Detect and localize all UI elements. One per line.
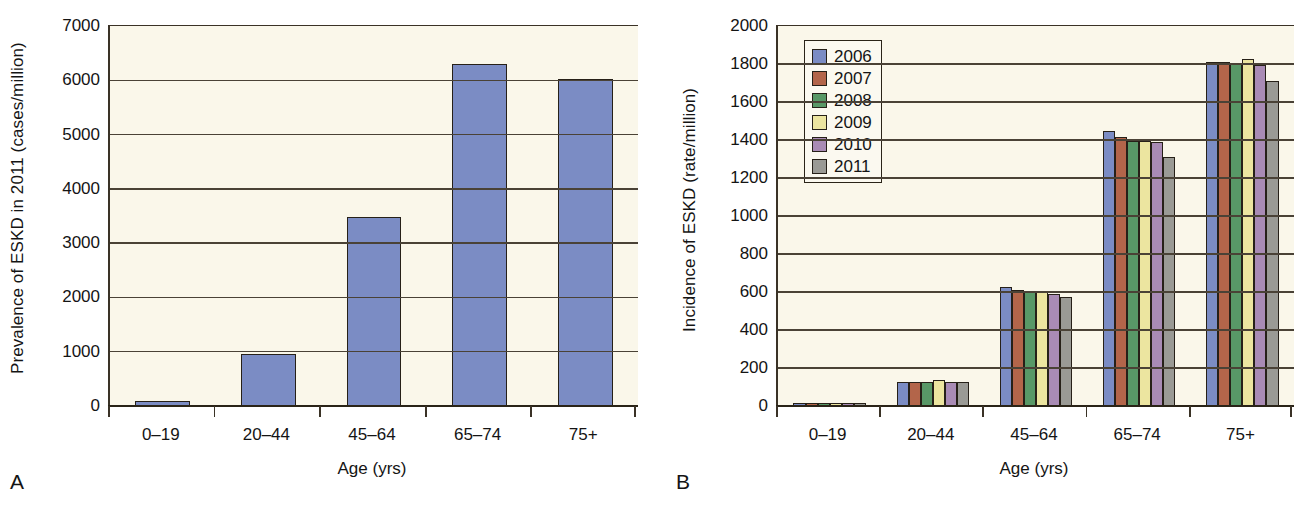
panel-b-x-axis-ticks: [776, 406, 1292, 418]
bar: [452, 64, 507, 406]
panel-a-letter: A: [10, 470, 24, 494]
bar: [1218, 62, 1230, 406]
x-tick-label: 20–44: [907, 425, 954, 445]
y-tick-label: 600: [740, 283, 768, 300]
gridline: [778, 367, 1294, 368]
panel-b-x-axis-title: Age (yrs): [776, 459, 1292, 479]
y-tick-label: 1000: [62, 342, 100, 359]
bar: [1139, 141, 1151, 406]
legend-swatch-icon: [812, 49, 827, 64]
y-tick-label: 4000: [62, 179, 100, 196]
y-tick-label: 7000: [62, 17, 100, 34]
figure-container: Prevalence of ESKD in 2011 (cases/millio…: [0, 0, 1316, 515]
x-tick-mark: [982, 406, 984, 417]
gridline: [110, 188, 638, 189]
bar: [1103, 131, 1115, 406]
legend-label: 2011: [834, 158, 871, 175]
panel-b-legend: 200620072008200920102011: [804, 40, 882, 183]
y-tick-label: 2000: [730, 17, 768, 34]
panel-b: Incidence of ESKD (rate/million) 0200400…: [656, 0, 1316, 515]
gridline: [778, 291, 1294, 292]
x-tick-mark: [1086, 406, 1088, 417]
bar: [1266, 81, 1278, 406]
bar: [1163, 157, 1175, 406]
x-tick-label: 0–19: [142, 425, 180, 445]
gridline: [778, 177, 1294, 178]
panel-a-x-axis-title: Age (yrs): [108, 459, 636, 479]
gridline: [110, 242, 638, 243]
bar: [921, 382, 933, 406]
panel-b-y-tick-labels: 0200400600800100012001400160018002000: [708, 25, 768, 405]
bar: [897, 382, 909, 406]
gridline: [778, 329, 1294, 330]
x-tick-mark: [879, 406, 881, 417]
gridline: [110, 351, 638, 352]
x-tick-mark: [214, 406, 216, 417]
panel-a-x-axis-ticks: [108, 406, 636, 418]
bar: [1000, 287, 1012, 406]
x-tick-mark: [776, 406, 778, 417]
gridline: [778, 63, 1294, 64]
bar: [347, 217, 402, 406]
bar: [909, 382, 921, 406]
x-tick-label: 45–64: [348, 425, 395, 445]
bar: [1206, 62, 1218, 406]
x-tick-mark: [530, 406, 532, 417]
bar: [1242, 59, 1254, 406]
legend-label: 2009: [834, 114, 872, 131]
x-tick-label: 65–74: [454, 425, 501, 445]
bar: [1254, 65, 1266, 406]
legend-swatch-icon: [812, 115, 827, 130]
x-tick-mark: [425, 406, 427, 417]
y-tick-label: 200: [740, 359, 768, 376]
y-tick-label: 1600: [730, 93, 768, 110]
bar: [1060, 297, 1072, 406]
gridline: [110, 134, 638, 135]
y-tick-label: 1800: [730, 55, 768, 72]
x-tick-label: 65–74: [1114, 425, 1161, 445]
gridline: [778, 215, 1294, 216]
gridline: [778, 101, 1294, 102]
x-tick-mark: [634, 406, 636, 417]
y-tick-label: 400: [740, 321, 768, 338]
x-tick-mark: [108, 406, 110, 417]
y-tick-label: 1200: [730, 169, 768, 186]
gridline: [778, 253, 1294, 254]
panel-b-letter: B: [676, 470, 690, 494]
bar: [933, 380, 945, 406]
legend-item: 2007: [812, 68, 872, 89]
bar: [1036, 291, 1048, 406]
panel-a-y-axis-title: Prevalence of ESKD in 2011 (cases/millio…: [8, 6, 28, 410]
y-tick-label: 1000: [730, 207, 768, 224]
legend-item: 2009: [812, 112, 872, 133]
legend-label: 2007: [834, 70, 872, 87]
gridline: [110, 297, 638, 298]
x-tick-label: 0–19: [809, 425, 847, 445]
y-tick-label: 0: [759, 397, 768, 414]
x-tick-label: 20–44: [243, 425, 290, 445]
y-tick-label: 5000: [62, 125, 100, 142]
y-tick-label: 800: [740, 245, 768, 262]
panel-a: Prevalence of ESKD in 2011 (cases/millio…: [0, 0, 660, 515]
x-tick-mark: [1189, 406, 1191, 417]
x-tick-label: 75+: [569, 425, 598, 445]
bar: [241, 354, 296, 406]
x-tick-mark: [1290, 406, 1292, 417]
x-tick-mark: [319, 406, 321, 417]
x-tick-label: 75+: [1226, 425, 1255, 445]
legend-item: 2011: [812, 156, 872, 177]
bar: [945, 382, 957, 406]
bar: [1012, 290, 1024, 406]
gridline: [110, 80, 638, 81]
y-tick-label: 6000: [62, 71, 100, 88]
panel-a-y-tick-labels: 01000200030004000500060007000: [40, 25, 100, 405]
bar: [957, 382, 969, 406]
bar: [1230, 63, 1242, 406]
bar: [1127, 141, 1139, 406]
panel-b-plot-area: 200620072008200920102011: [776, 25, 1294, 406]
bar: [1048, 294, 1060, 406]
bar: [1024, 291, 1036, 406]
x-tick-label: 45–64: [1010, 425, 1057, 445]
panel-a-bars: [110, 26, 638, 406]
legend-swatch-icon: [812, 71, 827, 86]
